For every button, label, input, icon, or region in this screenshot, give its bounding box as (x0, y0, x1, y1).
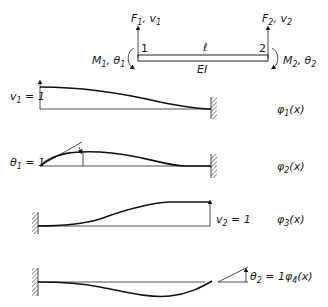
condition-label: θ1 = 1 (10, 156, 45, 171)
deflection-curve (40, 87, 211, 109)
beam-shape-functions-diagram: F1, v1 F2, v2 M1, θ1 M2, θ2 1 2 ℓ EI v1 … (0, 0, 328, 307)
shape-function-label: φ1(x) (277, 103, 304, 118)
right-moment-label: M2, θ2 (283, 54, 316, 69)
condition-label: v2 = 1 (216, 213, 251, 228)
shape-function-label: φ3(x) (277, 213, 304, 228)
shape-function-3: v2 = 1 φ3(x) (32, 202, 304, 234)
fixed-support-icon (32, 212, 38, 234)
beam-body (138, 55, 268, 61)
slope-tangent-line (218, 267, 248, 282)
node-2-label: 2 (259, 42, 266, 55)
left-moment-label: M1, θ1 (92, 54, 125, 69)
node-1-label: 1 (141, 42, 148, 55)
fixed-support-icon (32, 268, 38, 296)
shape-function-2: θ1 = 1 φ2(x) (10, 142, 304, 178)
shape-function-4: θ2 = 1 φ4(x) (32, 267, 312, 296)
shape-function-label: φ4(x) (285, 270, 312, 285)
length-label: ℓ (202, 41, 208, 54)
deflection-curve (38, 281, 212, 296)
beam-element: F1, v1 F2, v2 M1, θ1 M2, θ2 1 2 ℓ EI (92, 12, 316, 76)
shape-function-label: φ2(x) (277, 160, 304, 175)
stiffness-label: EI (197, 63, 207, 76)
deflection-curve (38, 202, 210, 226)
left-force-label: F1, v1 (131, 12, 161, 27)
fixed-support-icon (211, 97, 217, 119)
fixed-support-icon (211, 154, 217, 178)
shape-function-1: v1 = 1 φ1(x) (10, 82, 304, 119)
left-moment-arc-icon (128, 48, 134, 68)
right-moment-arc-icon (272, 48, 278, 68)
condition-label: θ2 = 1 (250, 270, 285, 285)
condition-label: v1 = 1 (10, 90, 45, 105)
deflection-curve (40, 152, 211, 166)
right-force-label: F2, v2 (262, 12, 292, 27)
